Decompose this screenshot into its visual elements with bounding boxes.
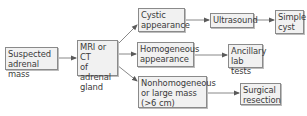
node-mri-or-ct: MRI or CT of adrenal gland xyxy=(77,40,118,76)
node-surgical-resection: Surgical resection xyxy=(240,83,281,105)
node-ancillary-lab-tests: Ancillary lab tests xyxy=(228,44,263,68)
node-nonhomogeneous-large-mass: Nonhomogeneous or large mass (>6 cm) xyxy=(138,76,207,108)
node-cystic-appearance: Cystic appearance xyxy=(138,8,185,32)
arrow-imaging-to-cystic xyxy=(117,25,137,45)
node-simple-cyst: Simple cyst xyxy=(275,10,304,34)
arrow-imaging-to-nonhomogeneous xyxy=(117,65,137,81)
node-ultrasound: Ultrasound xyxy=(210,13,254,28)
node-suspected-adrenal-mass: Suspected adrenal mass xyxy=(5,47,58,70)
node-homogeneous-appearance: Homogeneous appearance xyxy=(137,42,194,67)
